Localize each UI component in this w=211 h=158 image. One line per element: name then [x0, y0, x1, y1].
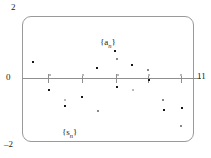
- data-point: [117, 74, 119, 76]
- y-axis-max-label: 2: [11, 3, 16, 12]
- data-point: [181, 107, 183, 109]
- y-axis-zero-label: 0: [6, 73, 11, 82]
- sequence-partial-sums-figure: 2 0 –2 11 {an} {sn}: [0, 0, 211, 158]
- data-point: [180, 74, 182, 76]
- data-point: [162, 99, 164, 101]
- data-point: [163, 109, 165, 111]
- series-label-a-n: {an}: [100, 38, 116, 49]
- data-point: [147, 69, 149, 71]
- data-point: [148, 79, 150, 81]
- x-axis-max-label: 11: [197, 72, 206, 81]
- data-point: [96, 67, 98, 69]
- data-point: [114, 50, 116, 52]
- series-label-s-n: {sn}: [62, 128, 77, 139]
- data-point: [81, 96, 83, 98]
- data-point: [116, 58, 118, 60]
- data-point: [97, 110, 99, 112]
- series-label-a-n-close: }: [112, 37, 116, 47]
- series-label-s-n-close: }: [73, 127, 77, 137]
- data-point: [132, 89, 134, 91]
- data-point: [49, 74, 51, 76]
- data-point: [116, 86, 118, 88]
- data-point: [64, 99, 66, 101]
- data-point: [64, 105, 66, 107]
- data-point: [180, 125, 182, 127]
- data-point: [82, 74, 84, 76]
- series-label-s-n-base: {s: [62, 127, 70, 137]
- data-point: [32, 61, 34, 63]
- data-point: [131, 64, 133, 66]
- data-point: [148, 74, 150, 76]
- data-point: [48, 89, 50, 91]
- y-axis-min-label: –2: [4, 140, 13, 149]
